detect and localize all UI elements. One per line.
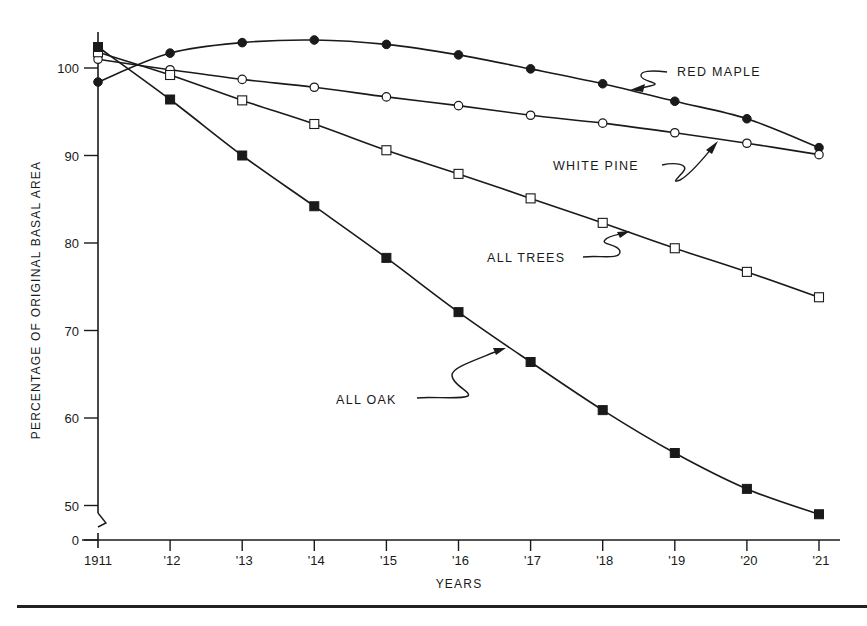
all-trees-label: ALL TREES bbox=[487, 251, 565, 265]
all-oak-arrow-icon bbox=[417, 352, 495, 398]
all-trees-data-point-open-square-icon bbox=[598, 218, 607, 227]
white-pine-label: WHITE PINE bbox=[553, 159, 639, 173]
all-oak-data-point-filled-square-icon bbox=[598, 406, 607, 415]
all-trees-data-point-open-square-icon bbox=[454, 169, 463, 178]
all-trees-data-point-open-square-icon bbox=[382, 146, 391, 155]
all-oak-data-point-filled-square-icon bbox=[310, 202, 319, 211]
all-oak-data-point-filled-square-icon bbox=[454, 308, 463, 317]
x-tick-label: 1911 bbox=[84, 553, 112, 568]
red-maple-data-point-filled-circle-icon bbox=[382, 40, 391, 49]
all-oak-label: ALL OAK bbox=[336, 393, 397, 407]
red-maple-data-point-filled-circle-icon bbox=[166, 49, 175, 58]
white-pine-data-point-open-circle-icon bbox=[526, 111, 534, 119]
x-tick-label: '20 bbox=[740, 553, 757, 568]
basal-area-line-chart: 050607080901001911'12'13'14'15'16'17'18'… bbox=[0, 0, 867, 626]
white-pine-data-point-open-circle-icon bbox=[454, 101, 462, 109]
series-markers bbox=[94, 36, 824, 519]
y-tick-label: 100 bbox=[57, 61, 79, 76]
y-tick-label: 80 bbox=[65, 236, 79, 251]
y-tick-label: 50 bbox=[65, 499, 79, 514]
all-oak-data-point-filled-square-icon bbox=[815, 510, 824, 519]
red-maple-data-point-filled-circle-icon bbox=[743, 114, 752, 123]
all-trees-data-point-open-square-icon bbox=[815, 293, 824, 302]
axis-break-icon bbox=[98, 513, 106, 527]
x-tick-label: '12 bbox=[164, 553, 181, 568]
all-trees-data-point-open-square-icon bbox=[310, 120, 319, 129]
all-trees-data-point-open-square-icon bbox=[742, 267, 751, 276]
x-tick-label: '14 bbox=[308, 553, 325, 568]
all-oak-data-point-filled-square-icon bbox=[94, 43, 103, 52]
red-maple-annotation: RED MAPLE bbox=[630, 65, 761, 92]
white-pine-data-point-open-circle-icon bbox=[671, 129, 679, 137]
red-maple-data-point-filled-circle-icon bbox=[94, 78, 103, 87]
x-tick-label: '17 bbox=[524, 553, 541, 568]
white-pine-data-point-open-circle-icon bbox=[815, 150, 823, 158]
white-pine-data-point-open-circle-icon bbox=[743, 139, 751, 147]
white-pine-arrow-icon bbox=[662, 148, 712, 181]
red-maple-data-point-filled-circle-icon bbox=[454, 51, 463, 60]
x-tick-label: '15 bbox=[380, 553, 397, 568]
all-trees-arrowhead-icon bbox=[617, 231, 630, 238]
red-maple-label: RED MAPLE bbox=[677, 65, 761, 79]
x-tick-label: '16 bbox=[452, 553, 469, 568]
white-pine-data-point-open-circle-icon bbox=[238, 75, 246, 83]
y-axis-title: PERCENTAGE OF ORIGINAL BASAL AREA bbox=[29, 161, 43, 440]
all-trees-data-point-open-square-icon bbox=[166, 71, 175, 80]
all-oak-annotation: ALL OAK bbox=[336, 348, 506, 407]
series-lines bbox=[98, 40, 819, 514]
series-line-all-oak bbox=[98, 47, 819, 514]
y-tick-label: 70 bbox=[65, 324, 79, 339]
all-trees-data-point-open-square-icon bbox=[238, 96, 247, 105]
white-pine-data-point-open-circle-icon bbox=[310, 83, 318, 91]
y-tick-label: 60 bbox=[65, 411, 79, 426]
white-pine-data-point-open-circle-icon bbox=[382, 93, 390, 101]
all-oak-data-point-filled-square-icon bbox=[238, 151, 247, 160]
all-oak-data-point-filled-square-icon bbox=[742, 484, 751, 493]
all-oak-arrowhead-icon bbox=[493, 348, 506, 355]
all-oak-data-point-filled-square-icon bbox=[670, 449, 679, 458]
y-tick-label: 90 bbox=[65, 149, 79, 164]
red-maple-data-point-filled-circle-icon bbox=[238, 38, 247, 47]
x-tick-label: '19 bbox=[668, 553, 685, 568]
all-oak-data-point-filled-square-icon bbox=[382, 253, 391, 262]
all-trees-data-point-open-square-icon bbox=[670, 244, 679, 253]
red-maple-data-point-filled-circle-icon bbox=[598, 79, 607, 88]
red-maple-data-point-filled-circle-icon bbox=[526, 65, 535, 74]
all-trees-arrow-icon bbox=[583, 233, 625, 257]
red-maple-data-point-filled-circle-icon bbox=[671, 97, 680, 106]
x-tick-label: '21 bbox=[813, 553, 830, 568]
all-oak-data-point-filled-square-icon bbox=[166, 95, 175, 104]
all-trees-annotation: ALL TREES bbox=[487, 231, 630, 265]
white-pine-annotation: WHITE PINE bbox=[553, 141, 718, 181]
all-trees-data-point-open-square-icon bbox=[526, 194, 535, 203]
x-axis-title: YEARS bbox=[436, 577, 483, 591]
red-maple-data-point-filled-circle-icon bbox=[310, 36, 319, 45]
white-pine-data-point-open-circle-icon bbox=[599, 119, 607, 127]
y-tick-label: 0 bbox=[72, 533, 79, 548]
x-tick-label: '18 bbox=[596, 553, 613, 568]
x-tick-label: '13 bbox=[236, 553, 253, 568]
all-oak-data-point-filled-square-icon bbox=[526, 358, 535, 367]
bottom-divider bbox=[17, 605, 867, 608]
